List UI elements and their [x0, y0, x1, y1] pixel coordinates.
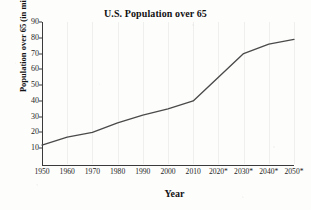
x-tick-label-1990: 1990 — [135, 168, 150, 176]
y-tick-label-80: 80 — [31, 34, 39, 42]
x-tick-label-1970: 1970 — [85, 168, 100, 176]
x-tick-label-1950: 1950 — [34, 168, 49, 176]
y-tick-label-10: 10 — [31, 144, 39, 152]
y-tick-label-90: 90 — [31, 18, 39, 26]
plot-area: 102030405060708090 195019601970198019902… — [42, 22, 294, 164]
y-tick-label-30: 30 — [31, 113, 39, 121]
chart-figure: U.S. Population over 65 Population over … — [0, 0, 311, 210]
x-axis-title: Year — [38, 188, 311, 199]
data-line-population-over-65 — [42, 22, 294, 164]
x-tick-label-1980: 1980 — [110, 168, 125, 176]
x-tick-label-2020-projected: 2020* — [209, 168, 228, 176]
x-tick-label-2030-projected: 2030* — [234, 168, 253, 176]
x-tick-label-2040-projected: 2040* — [259, 168, 278, 176]
x-tick-label-2050-projected: 2050* — [285, 168, 304, 176]
y-tick-label-70: 70 — [31, 50, 39, 58]
gridline-2050 — [294, 22, 295, 164]
x-axis-line — [42, 165, 294, 166]
y-tick-label-60: 60 — [31, 65, 39, 73]
y-axis-title: Population over 65 (in millions) — [18, 0, 28, 110]
x-tick-label-2010: 2010 — [186, 168, 201, 176]
chart-title: U.S. Population over 65 — [0, 8, 311, 19]
x-tick-label-2000: 2000 — [160, 168, 175, 176]
x-tick-label-1960: 1960 — [60, 168, 75, 176]
y-tick-label-50: 50 — [31, 81, 39, 89]
y-tick-label-20: 20 — [31, 128, 39, 136]
y-tick-label-40: 40 — [31, 97, 39, 105]
